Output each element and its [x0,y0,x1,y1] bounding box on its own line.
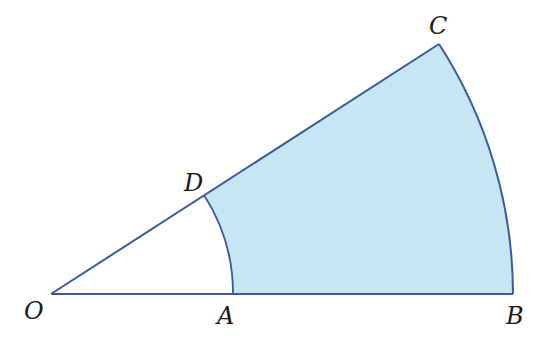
label-b: B [505,302,524,330]
sector-diagram: O A B C D [0,0,544,339]
label-c: C [429,12,447,40]
shaded-region-abcd [204,44,513,294]
label-o: O [24,297,44,325]
label-d: D [183,169,203,197]
label-a: A [215,302,234,330]
